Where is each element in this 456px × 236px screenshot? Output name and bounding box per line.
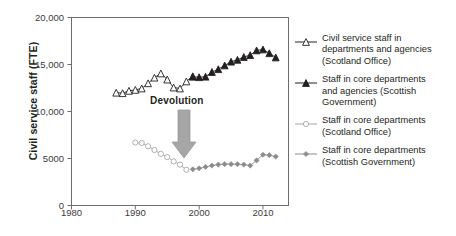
legend-label-line: and agencies (Scottish <box>322 86 426 97</box>
legend-marker-filled-diamond <box>294 148 318 160</box>
data-point-filled-diamond <box>190 167 195 172</box>
data-point-open-circle <box>145 144 150 149</box>
data-point-open-circle <box>152 147 157 152</box>
legend-entry[interactable]: Staff in core departments(Scotland Offic… <box>294 115 454 138</box>
data-point-filled-diamond <box>197 166 202 171</box>
data-point-filled-diamond <box>267 153 272 158</box>
legend-entry[interactable]: Staff in core departmentsand agencies (S… <box>294 74 454 108</box>
legend-marker-slot <box>294 34 318 46</box>
data-point-filled-diamond <box>235 162 240 167</box>
data-point-open-circle <box>303 122 308 127</box>
data-point-filled-triangle <box>228 58 235 65</box>
data-point-open-triangle <box>157 70 164 77</box>
data-point-filled-diamond <box>209 163 214 168</box>
data-point-open-circle <box>165 154 170 159</box>
series-1 <box>189 46 279 81</box>
data-point-filled-diamond <box>222 162 227 167</box>
data-point-filled-diamond <box>203 164 208 169</box>
legend-label-line: (Scotland Office) <box>322 56 432 67</box>
legend-label-line: departments and agencies <box>322 44 432 55</box>
legend-label: Staff in core departments(Scotland Offic… <box>322 115 426 138</box>
series-group <box>113 46 279 172</box>
data-point-open-circle <box>133 140 138 145</box>
legend-marker-open-circle <box>294 118 318 130</box>
legend-label-line: Staff in core departments <box>322 115 426 126</box>
legend-label-line: Staff in core departments <box>322 74 426 85</box>
legend-label: Staff in core departments(Scottish Gover… <box>322 145 426 168</box>
data-point-filled-triangle <box>247 52 254 59</box>
series-0 <box>113 70 196 97</box>
data-point-open-circle <box>139 140 144 145</box>
data-point-filled-triangle <box>209 69 216 76</box>
legend-label-line: (Scotland Office) <box>322 127 426 138</box>
series-3 <box>190 152 278 172</box>
legend-label-line: Civil service staff in <box>322 33 432 44</box>
legend-label-line: Staff in core departments <box>322 145 426 156</box>
axis-ticks <box>68 18 263 210</box>
chart-root: Civil service staff (FTE) 0500010,00015,… <box>0 0 456 236</box>
data-point-open-circle <box>171 159 176 164</box>
chart-legend: Civil service staff indepartments and ag… <box>294 33 454 175</box>
legend-marker-filled-triangle <box>294 77 318 89</box>
data-point-filled-diamond <box>216 162 221 167</box>
legend-marker-slot <box>294 116 318 128</box>
data-point-filled-triangle <box>272 54 279 61</box>
data-point-open-circle <box>184 167 189 172</box>
legend-marker-open-triangle <box>294 36 318 48</box>
devolution-annotation-label: Devolution <box>150 95 204 106</box>
devolution-arrow-icon <box>172 110 196 158</box>
data-point-open-circle <box>177 162 182 167</box>
data-point-filled-diamond <box>273 154 278 159</box>
data-point-open-triangle <box>151 74 158 81</box>
legend-marker-slot <box>294 146 318 158</box>
data-point-filled-diamond <box>303 152 308 157</box>
data-point-filled-triangle <box>240 54 247 61</box>
legend-entry[interactable]: Staff in core departments(Scottish Gover… <box>294 145 454 168</box>
legend-label: Civil service staff indepartments and ag… <box>322 33 432 67</box>
data-point-filled-triangle <box>234 56 241 63</box>
legend-label-line: Government) <box>322 97 426 108</box>
data-point-open-circle <box>158 151 163 156</box>
legend-label: Staff in core departmentsand agencies (S… <box>322 74 426 108</box>
data-point-filled-diamond <box>228 162 233 167</box>
data-point-filled-diamond <box>241 162 246 167</box>
legend-marker-slot <box>294 75 318 87</box>
legend-entry[interactable]: Civil service staff indepartments and ag… <box>294 33 454 67</box>
legend-label-line: (Scottish Government) <box>322 157 426 168</box>
